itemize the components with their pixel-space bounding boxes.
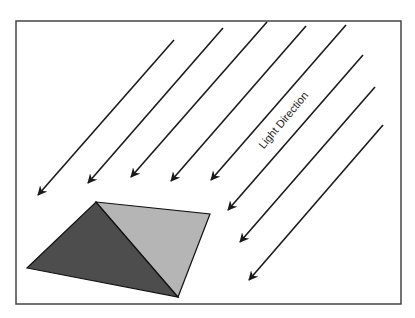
light-ray-arrow	[211, 25, 346, 180]
light-ray-arrow	[88, 28, 223, 183]
light-ray-arrow	[131, 22, 267, 177]
light-ray-arrow	[171, 26, 306, 181]
light-ray-arrow	[249, 125, 383, 280]
light-ray-arrow	[38, 40, 174, 195]
light-direction-diagram: Light Direction	[0, 0, 415, 318]
pyramid-shape	[27, 202, 210, 297]
diagram-canvas	[0, 0, 415, 318]
light-ray-arrow	[240, 87, 375, 242]
light-ray-arrow	[228, 55, 363, 210]
